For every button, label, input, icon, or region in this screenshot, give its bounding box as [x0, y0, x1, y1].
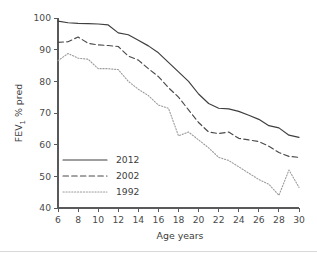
data-series-group	[58, 21, 299, 195]
legend-label-2002: 2002	[116, 170, 139, 181]
y-axis-title-text: FEV1 % pred	[13, 84, 27, 142]
x-tick-label: 10	[92, 214, 104, 225]
x-tick-label: 12	[112, 214, 124, 225]
y-axis-ticks: 405060708090100	[33, 12, 58, 213]
x-tick-label: 22	[213, 214, 225, 225]
y-tick-label: 60	[39, 139, 51, 150]
x-tick-label: 20	[193, 214, 205, 225]
chart-figure: 405060708090100 681012141618202224262830…	[0, 0, 317, 258]
chart-legend: 201220021992	[63, 154, 139, 197]
y-tick-label: 100	[33, 12, 51, 23]
x-tick-label: 6	[55, 214, 61, 225]
x-tick-label: 26	[253, 214, 265, 225]
y-tick-label: 90	[39, 44, 51, 55]
fev1-decline-line-chart: 405060708090100 681012141618202224262830…	[0, 0, 317, 258]
legend-label-2012: 2012	[116, 154, 139, 165]
x-tick-label: 18	[173, 214, 185, 225]
y-tick-label: 50	[39, 171, 51, 182]
x-axis-ticks: 681012141618202224262830	[55, 208, 305, 225]
x-tick-label: 30	[293, 214, 305, 225]
y-tick-label: 40	[39, 202, 51, 213]
x-tick-label: 24	[233, 214, 245, 225]
series-line-2012	[58, 21, 299, 137]
legend-label-1992: 1992	[116, 186, 139, 197]
y-axis-title-tail: % pred	[13, 84, 24, 120]
series-line-2002	[58, 37, 299, 157]
y-tick-label: 70	[39, 107, 51, 118]
x-tick-label: 16	[153, 214, 165, 225]
y-axis-title-main: FEV	[13, 124, 24, 142]
y-axis-title: FEV1 % pred	[13, 84, 27, 142]
axes-group	[58, 18, 299, 208]
series-line-1992	[58, 53, 299, 195]
x-tick-label: 14	[132, 214, 144, 225]
x-tick-label: 28	[273, 214, 285, 225]
y-tick-label: 80	[39, 76, 51, 87]
x-tick-label: 8	[75, 214, 81, 225]
x-axis-title: Age years	[157, 230, 204, 241]
